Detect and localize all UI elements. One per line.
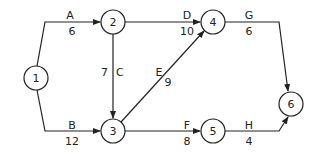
node-3: 3 <box>101 119 125 143</box>
node-5: 5 <box>201 119 225 143</box>
edge-D: D 10 <box>125 9 200 38</box>
node-1-label: 1 <box>33 72 40 85</box>
edge-A-duration: 6 <box>69 25 76 38</box>
edge-B: B 12 <box>37 90 100 148</box>
edge-D-activity: D <box>183 9 191 22</box>
edge-E-activity: E <box>156 66 163 79</box>
edge-C-activity: C <box>116 66 124 79</box>
node-6-label: 6 <box>288 98 295 111</box>
edge-F-duration: 8 <box>184 135 191 148</box>
node-6: 6 <box>279 92 303 116</box>
edge-H-activity: H <box>245 119 253 132</box>
edge-B-duration: 12 <box>65 135 79 148</box>
edge-H: H 4 <box>225 117 288 148</box>
edge-D-duration: 10 <box>180 25 194 38</box>
edge-A: A 6 <box>37 9 100 66</box>
edge-E: E 9 <box>121 31 204 122</box>
edge-G-activity: G <box>245 9 254 22</box>
edge-C: 7 C <box>101 34 124 118</box>
node-4: 4 <box>201 10 225 34</box>
edge-G-duration: 6 <box>246 25 253 38</box>
node-2: 2 <box>101 10 125 34</box>
edge-A-activity: A <box>66 9 74 22</box>
node-3-label: 3 <box>110 125 117 138</box>
edge-B-activity: B <box>68 119 76 132</box>
node-5-label: 5 <box>210 125 217 138</box>
edge-F-activity: F <box>184 119 190 132</box>
edge-G: G 6 <box>225 9 288 91</box>
edge-H-duration: 4 <box>246 135 253 148</box>
edge-C-duration: 7 <box>101 66 108 79</box>
edge-F: F 8 <box>125 119 200 148</box>
node-2-label: 2 <box>110 16 117 29</box>
edge-E-duration: 9 <box>165 76 172 89</box>
activity-network-diagram: A 6 B 12 7 C D 10 E 9 F 8 G 6 H 4 1 <box>0 0 319 155</box>
node-4-label: 4 <box>210 16 217 29</box>
node-1: 1 <box>24 66 48 90</box>
